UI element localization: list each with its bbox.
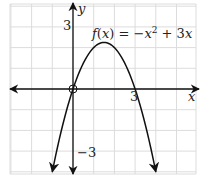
x-tick-label-3: 3 <box>130 89 138 104</box>
y-axis-label: y <box>77 1 86 16</box>
function-label: f(x) = −x2 + 3x <box>91 25 193 41</box>
y-tick-label-3: 3 <box>63 18 71 33</box>
x-axis-label: x <box>188 89 196 104</box>
y-tick-label-neg3: −3 <box>77 145 96 160</box>
function-graph: y x 3 3 −3 f(x) = −x2 + 3x <box>0 0 210 185</box>
parabola-curve <box>52 42 156 171</box>
